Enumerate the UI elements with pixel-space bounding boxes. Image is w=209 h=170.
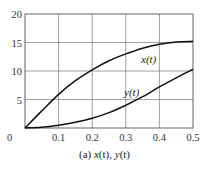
x-tick-label: 0.1 <box>52 132 65 143</box>
x-tick-label: 0.3 <box>119 132 132 143</box>
y-curve <box>25 69 193 128</box>
y-tick-label: 20 <box>12 9 23 20</box>
y-tick-label: 5 <box>17 95 22 106</box>
x-tick-label: 0.5 <box>186 132 199 143</box>
x-curve-label: x(t) <box>140 53 157 66</box>
x-tick-label: 0.2 <box>86 132 99 143</box>
chart-caption: (a) x(t), y(t) <box>0 148 209 160</box>
y-axis-ticks: 5101520 <box>12 9 23 106</box>
x-tick-label: 0 <box>7 132 12 143</box>
y-curve-label: y(t) <box>123 86 140 99</box>
x-curve <box>25 41 193 128</box>
grid-lines <box>25 14 193 128</box>
curves <box>25 41 193 128</box>
x-axis-ticks: 00.10.20.30.40.5 <box>7 132 200 143</box>
line-chart: 5101520 00.10.20.30.40.5 x(t) y(t) <box>0 0 209 170</box>
y-tick-label: 10 <box>12 66 23 77</box>
x-tick-label: 0.4 <box>153 132 167 143</box>
y-tick-label: 15 <box>12 38 23 49</box>
